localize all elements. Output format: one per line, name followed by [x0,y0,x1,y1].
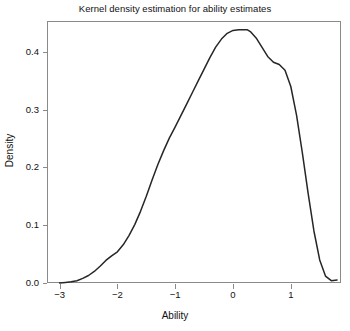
density-plot-figure: Kernel density estimation for ability es… [0,0,350,331]
density-curve [60,30,337,283]
density-curve-layer [0,0,350,331]
